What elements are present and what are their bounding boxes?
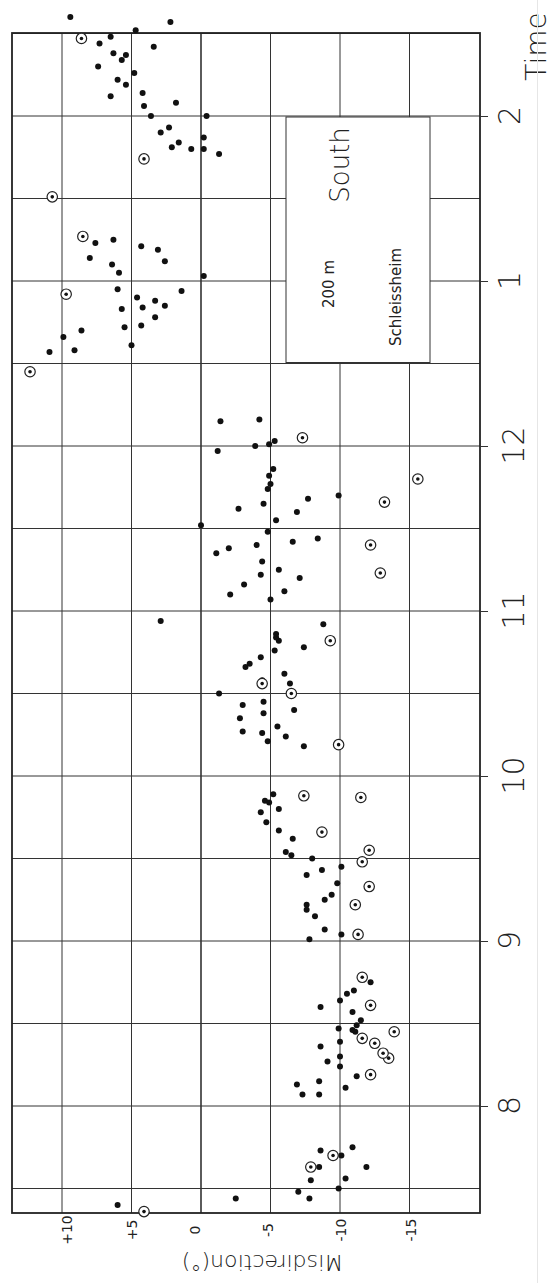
data-point — [350, 1144, 356, 1150]
data-point — [343, 1085, 349, 1091]
data-point — [140, 90, 146, 96]
data-point — [97, 40, 103, 46]
ringed-point — [142, 157, 146, 161]
data-point — [67, 14, 73, 20]
data-point — [318, 1004, 324, 1010]
data-point — [60, 334, 66, 340]
time-tick-label: 11 — [496, 591, 531, 629]
data-point — [227, 592, 233, 598]
box-label-site: Schleissheim — [387, 248, 405, 346]
data-point — [151, 44, 157, 50]
data-point — [261, 710, 267, 716]
data-point — [351, 988, 357, 994]
data-point — [263, 819, 269, 825]
data-point — [169, 144, 175, 150]
data-point — [167, 19, 173, 25]
data-point — [110, 237, 116, 243]
data-point — [46, 349, 52, 355]
data-point — [338, 1153, 344, 1159]
data-point — [258, 809, 264, 815]
data-point — [115, 286, 121, 292]
data-point — [119, 57, 125, 63]
time-tick-mark — [480, 1106, 488, 1107]
data-point — [259, 730, 265, 736]
data-point — [162, 303, 168, 309]
data-point — [109, 262, 115, 268]
data-point — [319, 867, 325, 873]
ringed-point — [328, 639, 332, 643]
data-point — [95, 64, 101, 70]
data-point — [337, 1054, 343, 1060]
data-point — [201, 273, 207, 279]
data-point — [241, 582, 247, 588]
data-point — [148, 113, 154, 119]
ringed-point — [379, 571, 383, 575]
data-point — [265, 738, 271, 744]
data-point — [237, 715, 243, 721]
data-point — [272, 648, 278, 654]
data-point — [119, 306, 125, 312]
data-point — [201, 134, 207, 140]
data-point — [158, 130, 164, 136]
data-point — [198, 522, 204, 528]
misdirection-tick-label: -15 — [403, 1219, 419, 1242]
ringed-point — [290, 692, 294, 696]
ringed-point — [373, 1042, 377, 1046]
data-point — [308, 1177, 314, 1183]
data-point — [115, 1202, 121, 1208]
ringed-point — [367, 885, 371, 889]
ringed-point — [353, 903, 357, 907]
data-point — [354, 1073, 360, 1079]
ringed-point — [392, 1030, 396, 1034]
data-point — [301, 644, 307, 650]
data-point — [276, 827, 282, 833]
data-point — [122, 324, 128, 330]
data-point — [337, 997, 343, 1003]
ringed-point — [356, 933, 360, 937]
data-point — [247, 661, 253, 667]
data-point — [305, 496, 311, 502]
ringed-point — [360, 976, 364, 980]
data-point — [258, 654, 264, 660]
data-point — [266, 441, 272, 447]
time-tick-mark — [480, 941, 488, 942]
data-point — [336, 493, 342, 499]
time-tick-label: 10 — [496, 756, 531, 794]
ringed-point — [260, 682, 264, 686]
time-tick-label: 9 — [492, 931, 527, 950]
ringed-point — [142, 1210, 146, 1214]
data-point — [272, 438, 278, 444]
data-point — [343, 1176, 349, 1182]
data-point — [123, 82, 129, 88]
time-tick-mark — [480, 446, 488, 447]
data-point — [274, 724, 280, 730]
data-point — [294, 1082, 300, 1088]
annotation-box — [286, 117, 430, 363]
ringed-point — [381, 1051, 385, 1055]
misdirection-tick-label: -10 — [333, 1219, 349, 1242]
data-point — [306, 1195, 312, 1201]
data-point — [337, 1063, 343, 1069]
data-point — [290, 836, 296, 842]
data-point — [316, 1091, 322, 1097]
data-point — [252, 443, 258, 449]
data-point — [268, 596, 274, 602]
data-point — [158, 618, 164, 624]
data-point — [329, 892, 335, 898]
data-point — [138, 243, 144, 249]
data-point — [92, 240, 98, 246]
data-point — [133, 27, 139, 33]
data-point — [261, 699, 267, 705]
page-edge — [537, 0, 538, 1283]
data-point — [354, 1022, 360, 1028]
data-point — [108, 34, 114, 40]
box-label-altitude: 200 m — [320, 260, 338, 308]
data-point — [309, 856, 315, 862]
misdirection-axis-title: Misdirection(°) — [182, 1250, 343, 1275]
time-tick-mark — [480, 281, 488, 282]
data-point — [297, 575, 303, 581]
ringed-point — [301, 436, 305, 440]
ringed-point — [416, 477, 420, 481]
data-point — [152, 314, 158, 320]
data-point — [338, 864, 344, 870]
